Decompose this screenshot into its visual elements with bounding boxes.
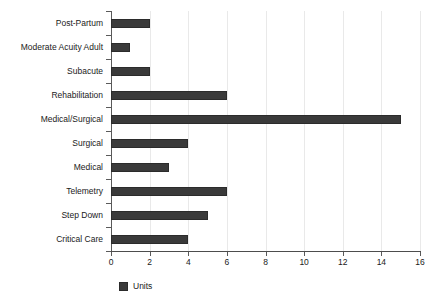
y-tick (106, 35, 111, 36)
bar-row (111, 227, 420, 251)
y-axis-tick-labels: Post-PartumModerate Acuity AdultSubacute… (0, 11, 103, 251)
x-tick-8 (266, 252, 267, 256)
y-axis-label-2: Subacute (0, 66, 103, 76)
y-tick (106, 155, 111, 156)
x-tick-4 (188, 252, 189, 256)
bar-row (111, 131, 420, 155)
bar (111, 19, 150, 28)
bar (111, 115, 401, 124)
chart-legend: Units (119, 281, 152, 291)
y-axis-ticks (105, 11, 111, 251)
bar-row (111, 179, 420, 203)
y-tick (106, 83, 111, 84)
bar-row (111, 11, 420, 35)
y-axis-label-6: Medical (0, 162, 103, 172)
x-axis-label-16: 16 (415, 257, 424, 268)
y-tick (106, 11, 111, 12)
x-tick-12 (343, 252, 344, 256)
bar-row (111, 155, 420, 179)
bar-row (111, 107, 420, 131)
x-axis-label-14: 14 (377, 257, 386, 268)
x-axis-label-10: 10 (299, 257, 308, 268)
bar (111, 211, 208, 220)
y-axis-label-0: Post-Partum (0, 18, 103, 28)
x-tick-14 (381, 252, 382, 256)
bar-row (111, 35, 420, 59)
y-tick (106, 179, 111, 180)
x-tick-10 (304, 252, 305, 256)
x-axis-label-6: 6 (225, 257, 230, 268)
x-axis-label-2: 2 (147, 257, 152, 268)
bar-series-units (111, 11, 420, 251)
gridline-x-16 (420, 11, 421, 251)
legend-swatch-units (119, 282, 128, 291)
x-tick-2 (150, 252, 151, 256)
y-axis-label-3: Rehabilitation (0, 90, 103, 100)
bar-row (111, 59, 420, 83)
bar (111, 139, 188, 148)
bar (111, 163, 169, 172)
y-tick (106, 107, 111, 108)
x-axis-label-8: 8 (263, 257, 268, 268)
y-axis-label-8: Step Down (0, 210, 103, 220)
bar (111, 187, 227, 196)
bar (111, 43, 130, 52)
y-tick (106, 227, 111, 228)
y-tick (106, 131, 111, 132)
y-axis-label-5: Surgical (0, 138, 103, 148)
x-tick-0 (111, 252, 112, 256)
y-axis-label-1: Moderate Acuity Adult (0, 42, 103, 52)
bar (111, 67, 150, 76)
bar (111, 91, 227, 100)
plot-area (111, 11, 420, 251)
bar (111, 235, 188, 244)
legend-label-units: Units (133, 281, 152, 291)
y-axis-label-4: Medical/Surgical (0, 114, 103, 124)
x-axis-label-0: 0 (109, 257, 114, 268)
y-tick (106, 59, 111, 60)
bar-row (111, 83, 420, 107)
x-axis-tick-labels: 0246810121416 (111, 257, 420, 269)
y-axis-label-7: Telemetry (0, 186, 103, 196)
y-axis-label-9: Critical Care (0, 234, 103, 244)
y-tick (106, 203, 111, 204)
x-tick-16 (420, 252, 421, 256)
x-axis-label-12: 12 (338, 257, 347, 268)
bar-row (111, 203, 420, 227)
bar-chart: Post-PartumModerate Acuity AdultSubacute… (0, 0, 431, 298)
x-tick-6 (227, 252, 228, 256)
x-axis-label-4: 4 (186, 257, 191, 268)
